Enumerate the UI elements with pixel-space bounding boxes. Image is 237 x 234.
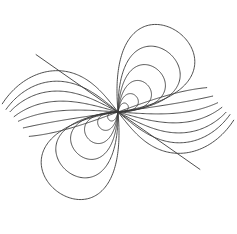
dipole-figure: [0, 0, 237, 234]
field-line-canvas: [0, 0, 237, 234]
